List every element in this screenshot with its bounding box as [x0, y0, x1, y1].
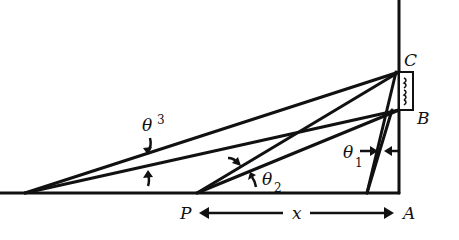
- theta1-arrowhead-right-icon: [384, 146, 392, 156]
- theta2-arrow-lower-icon: [252, 177, 256, 187]
- label-theta2-subscript: 2: [274, 181, 282, 195]
- label-theta3-subscript: 3: [157, 113, 165, 127]
- label-A: A: [401, 203, 415, 223]
- label-C: C: [404, 50, 417, 70]
- label-P: P: [179, 203, 192, 223]
- label-theta1: θ: [343, 142, 353, 162]
- label-theta2: θ: [262, 169, 272, 189]
- theta3-arrowhead-up-icon: [143, 170, 153, 178]
- arrowhead-P-icon: [199, 207, 209, 219]
- label-theta1-subscript: 1: [355, 156, 363, 170]
- ray-P-to-C: [197, 72, 399, 193]
- label-B: B: [416, 108, 430, 128]
- label-theta3: θ: [142, 115, 152, 135]
- diagram-canvas: C B A P x θ 3 θ 2 θ 1: [0, 0, 459, 240]
- label-x: x: [292, 203, 302, 223]
- arrowhead-A-icon: [384, 207, 394, 219]
